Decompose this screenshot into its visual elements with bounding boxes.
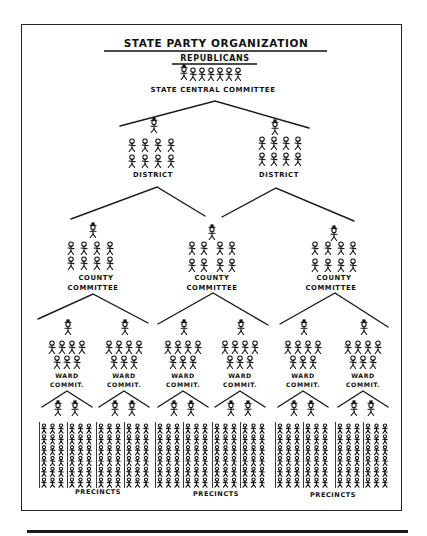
precinct-column <box>215 424 236 487</box>
precincts-label: PRECINCTS <box>75 488 121 496</box>
district-label: DISTRICT <box>259 171 299 179</box>
ward-label-line2: COMMIT. <box>286 381 320 388</box>
precinct-column <box>338 424 359 487</box>
county-1: COUNTY COMMITTEE <box>68 222 119 292</box>
ward-label-line1: WARD <box>291 372 315 379</box>
precinct-house-4 <box>215 391 265 416</box>
county2-to-ward-connector <box>158 293 268 325</box>
ward-committees: WARDCOMMIT.WARDCOMMIT.WARDCOMMIT.WARDCOM… <box>49 319 381 388</box>
precinct-house-2 <box>99 391 149 416</box>
ward-5: WARDCOMMIT. <box>285 319 321 388</box>
district-label: DISTRICT <box>133 171 173 179</box>
ward-label-line1: WARD <box>171 372 195 379</box>
precinct-column <box>127 424 148 487</box>
state-committee-label: STATE CENTRAL COMMITTEE <box>150 86 275 94</box>
diagram-title: STATE PARTY ORGANIZATION <box>124 37 309 49</box>
precinct-column <box>70 424 91 487</box>
party-label: REPUBLICANS <box>180 54 249 63</box>
ward-label-line2: COMMIT. <box>166 381 200 388</box>
precinct-house-3 <box>158 391 208 416</box>
precinct-column <box>99 424 120 487</box>
ward-6: WARDCOMMIT. <box>345 319 381 388</box>
district-1: DISTRICT <box>129 117 174 179</box>
ward-2: WARDCOMMIT. <box>106 319 142 388</box>
county-2: COUNTY COMMITTEE <box>187 224 238 292</box>
precinct-column <box>158 424 179 487</box>
county-label-line2: COMMITTEE <box>306 284 357 292</box>
county-3: COUNTY COMMITTEE <box>306 225 357 292</box>
district1-to-county-connector <box>71 187 205 219</box>
county-label-line1: COUNTY <box>194 274 229 282</box>
precinct-column <box>366 424 387 487</box>
precinct-column <box>42 424 63 487</box>
ward-label-line1: WARD <box>228 372 252 379</box>
precincts-label: PRECINCTS <box>310 491 356 499</box>
district-2: DISTRICT <box>259 119 301 179</box>
county-label-line2: COMMITTEE <box>68 284 119 292</box>
party-organization-diagram: STATE PARTY ORGANIZATION REPUBLICANS STA… <box>0 0 427 536</box>
ward-label-line1: WARD <box>351 372 375 379</box>
precinct-column <box>186 424 207 487</box>
county-label-line2: COMMITTEE <box>187 284 238 292</box>
ward-label-line1: WARD <box>55 372 79 379</box>
precinct-house-6 <box>338 391 388 416</box>
precinct-house-5 <box>278 391 328 416</box>
county-label-line1: COUNTY <box>316 274 351 282</box>
ward-3: WARDCOMMIT. <box>165 319 201 388</box>
county-label-line1: COUNTY <box>78 274 113 282</box>
ward-label-line2: COMMIT. <box>107 381 141 388</box>
ward-label-line2: COMMIT. <box>346 381 380 388</box>
precincts-label: PRECINCTS <box>193 490 239 498</box>
ward-label-line2: COMMIT. <box>223 381 257 388</box>
state-to-district-connector <box>120 101 309 128</box>
ward-4: WARDCOMMIT. <box>222 319 258 388</box>
county1-to-ward-connector <box>38 294 148 323</box>
ward-label-line2: COMMIT. <box>50 381 84 388</box>
state-committee-figures <box>181 64 241 80</box>
ward-1: WARDCOMMIT. <box>49 319 85 388</box>
precinct-column <box>243 424 264 487</box>
precinct-column <box>306 424 327 487</box>
precinct-column <box>278 424 299 487</box>
precinct-house-1 <box>42 391 92 416</box>
district2-to-county-connector <box>222 188 354 221</box>
precincts <box>40 391 389 488</box>
county3-to-ward-connector <box>280 293 388 327</box>
state-chair-figure <box>181 64 187 79</box>
ward-label-line1: WARD <box>112 372 136 379</box>
